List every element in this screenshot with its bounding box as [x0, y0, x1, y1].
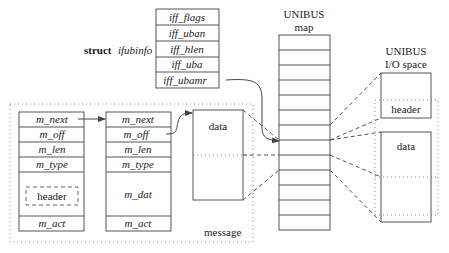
- mapping-lines-left: [243, 110, 279, 200]
- field-iff-uban: iff_uban: [169, 27, 206, 39]
- unibus-map: [279, 35, 330, 230]
- unibus-map-title-1: UNIBUS: [284, 8, 325, 20]
- io-space-title-1: UNIBUS: [386, 45, 427, 57]
- struct-keyword: struct: [84, 44, 112, 56]
- mbuf1-m-next: m_next: [36, 113, 69, 125]
- mbuf1-m-off: m_off: [39, 128, 66, 140]
- data-label: data: [209, 120, 227, 132]
- mapping-lines-right: [330, 73, 381, 222]
- field-iff-hlen: iff_hlen: [170, 43, 204, 55]
- unibus-map-title-2: map: [295, 21, 314, 33]
- mbuf1-m-len: m_len: [39, 143, 66, 155]
- mbuf-2: m_next m_off m_len m_type m_dat m_act: [106, 112, 171, 231]
- mbuf1-m-type: m_type: [36, 158, 68, 170]
- message-label: message: [204, 226, 241, 238]
- struct-name: ifubinfo: [118, 44, 153, 56]
- field-iff-flags: iff_flags: [169, 11, 205, 23]
- mbuf2-m-len: m_len: [125, 143, 152, 155]
- io-data-label: data: [397, 140, 415, 152]
- mbuf2-m-next: m_next: [122, 113, 155, 125]
- mbuf-1: m_next m_off m_len m_type header m_act: [19, 112, 84, 231]
- io-space-title-2: I/O space: [385, 58, 427, 70]
- ifubinfo-struct: struct ifubinfo iff_flags iff_uban iff_h…: [84, 9, 219, 88]
- mbuf2-m-type: m_type: [122, 158, 154, 170]
- mbuf2-m-off: m_off: [123, 128, 150, 140]
- mbuf2-m-dat: m_dat: [124, 188, 152, 200]
- mbuf2-m-act: m_act: [125, 217, 153, 229]
- mbuf1-m-act: m_act: [39, 217, 67, 229]
- m-off-arrow: [166, 113, 192, 134]
- field-iff-ubamr: iff_ubamr: [163, 74, 207, 86]
- mbuf1-header: header: [37, 190, 67, 202]
- io-space: header data: [375, 73, 438, 222]
- field-iff-uba: iff_uba: [171, 58, 203, 70]
- io-header-label: header: [391, 103, 421, 115]
